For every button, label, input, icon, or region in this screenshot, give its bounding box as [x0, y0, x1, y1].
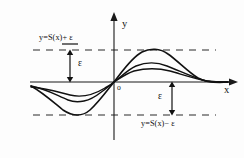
math-figure: y=S(x)+ ε y=S(x)− ε y x ε ε o: [0, 0, 244, 158]
x-axis-label: x: [224, 85, 229, 96]
y-axis-label: y: [122, 19, 127, 30]
y-axis-arrowhead: [110, 12, 117, 21]
epsilon-lower-label: ε: [158, 92, 162, 102]
epsilon-upper-label: ε: [78, 59, 82, 69]
origin-label: o: [117, 84, 121, 92]
x-axis-arrowhead: [229, 78, 238, 85]
lower-bound-label: y=S(x)− ε: [141, 120, 175, 128]
upper-bound-label: y=S(x)+ ε: [39, 34, 73, 42]
